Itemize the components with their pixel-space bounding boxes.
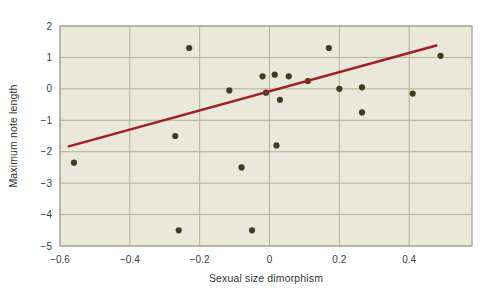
plot-area-background bbox=[60, 26, 472, 246]
scatter-chart-figure: 210−1−2−3−4−5−0.6−0.4−0.200.20.4 Maximum… bbox=[0, 0, 494, 297]
data-point bbox=[176, 227, 182, 233]
x-tick-label: 0.4 bbox=[402, 254, 416, 265]
x-tick-label: 0 bbox=[267, 254, 273, 265]
data-point bbox=[226, 87, 232, 93]
y-tick-label: −5 bbox=[41, 241, 53, 252]
chart-canvas: 210−1−2−3−4−5−0.6−0.4−0.200.20.4 bbox=[0, 0, 494, 297]
data-point bbox=[359, 109, 365, 115]
data-point bbox=[286, 73, 292, 79]
data-point bbox=[249, 227, 255, 233]
y-tick-label: 1 bbox=[46, 52, 52, 63]
y-tick-label: −1 bbox=[41, 115, 53, 126]
x-axis-label: Sexual size dimorphism bbox=[60, 272, 472, 284]
y-tick-label: −2 bbox=[41, 146, 53, 157]
data-point bbox=[437, 53, 443, 59]
y-tick-label: 2 bbox=[46, 21, 52, 32]
data-point bbox=[273, 142, 279, 148]
data-point bbox=[172, 133, 178, 139]
data-point bbox=[272, 72, 278, 78]
data-point bbox=[410, 90, 416, 96]
data-point bbox=[238, 164, 244, 170]
data-point bbox=[71, 160, 77, 166]
data-point bbox=[359, 84, 365, 90]
y-tick-label: −4 bbox=[41, 209, 53, 220]
x-tick-label: −0.2 bbox=[190, 254, 210, 265]
y-tick-label: 0 bbox=[46, 83, 52, 94]
x-tick-label: 0.2 bbox=[332, 254, 346, 265]
y-axis-label: Maximum note length bbox=[7, 84, 19, 187]
data-point bbox=[259, 73, 265, 79]
data-point bbox=[277, 97, 283, 103]
data-point bbox=[336, 86, 342, 92]
data-point bbox=[326, 45, 332, 51]
data-point bbox=[186, 45, 192, 51]
y-tick-label: −3 bbox=[41, 178, 53, 189]
x-tick-label: −0.4 bbox=[120, 254, 140, 265]
x-tick-label: −0.6 bbox=[50, 254, 70, 265]
